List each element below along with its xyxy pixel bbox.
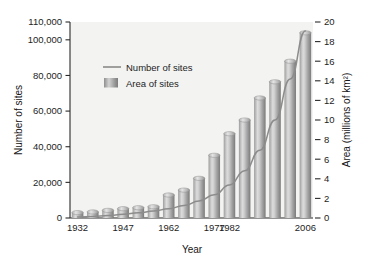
bar [133,206,145,218]
bar [224,132,236,218]
bar [178,188,190,218]
y-axis-title: Number of sites [13,85,24,155]
right-tick-label: 6 [324,154,329,165]
x-tick-label: 1962 [158,222,179,233]
left-tick-label: 80,000 [33,70,62,81]
bar [254,96,266,218]
legend-label-area-of-sites: Area of sites [126,78,179,89]
bar [269,80,281,218]
x-tick-label: 1982 [219,222,240,233]
right-tick-label: 16 [324,56,335,67]
right-tick-label: 2 [324,193,329,204]
legend-label-number-of-sites: Number of sites [126,62,193,73]
left-tick-label: 100,000 [28,34,62,45]
legend-bar-swatch [104,78,118,88]
right-tick-label: 18 [324,36,335,47]
bar [102,208,114,218]
left-tick-label: 40,000 [33,141,62,152]
left-tick-label: 0 [57,212,62,223]
left-tick-label: 60,000 [33,105,62,116]
bar [193,176,205,218]
right-tick-label: 8 [324,134,329,145]
right-tick-label: 4 [324,173,329,184]
bar [209,153,221,218]
left-tick-label: 110,000 [28,16,62,27]
right-tick-label: 20 [324,16,335,27]
combo-chart-svg: 020,00040,00060,00080,000100,000110,000 … [0,0,369,266]
left-tick-label: 20,000 [33,177,62,188]
x-axis-title: Year [182,244,203,255]
right-tick-label: 10 [324,114,335,125]
bar [163,193,175,218]
y2-axis-title: Area (millions of km²) [341,73,352,167]
bar [300,31,312,218]
x-tick-label: 2006 [295,222,316,233]
right-tick-label: 0 [324,212,329,223]
right-tick-label: 14 [324,75,335,86]
x-tick-label: 1932 [67,222,88,233]
bar [117,207,129,218]
chart-figure: 020,00040,00060,00080,000100,000110,000 … [0,0,369,266]
x-tick-label: 1947 [113,222,134,233]
right-tick-label: 12 [324,95,335,106]
